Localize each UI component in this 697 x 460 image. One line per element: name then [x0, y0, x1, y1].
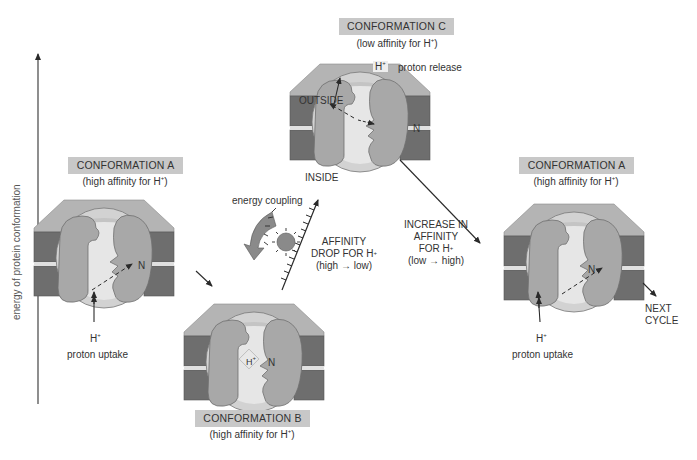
conformation-c-title: CONFORMATION C: [339, 18, 454, 35]
conformation-b-subtitle: (high affinity for H+): [187, 429, 317, 440]
conformation-a-right-subtitle: (high affinity for H+): [511, 176, 641, 187]
next-cycle-label: NEXT CYCLE: [645, 303, 678, 327]
proton-uptake-label-right: proton uptake: [512, 349, 573, 360]
conformation-b-title: CONFORMATION B: [195, 410, 310, 427]
transporter-conformation-c: [290, 64, 430, 172]
proton-release-label: proton release: [398, 62, 462, 73]
affinity-drop-label: AFFINITY DROP FOR H+ (high → low): [304, 236, 384, 272]
site-label-n: N: [588, 264, 595, 275]
transporter-conformation-a-right: [504, 204, 644, 312]
site-label-n: N: [413, 123, 420, 134]
conformation-a-right-title: CONFORMATION A: [519, 157, 634, 174]
conformation-a-left-title: CONFORMATION A: [68, 157, 183, 174]
site-label-n: N: [138, 260, 145, 271]
conformation-a-left-subtitle: (high affinity for H+): [60, 176, 190, 187]
energy-axis-label: energy of protein conformation: [11, 184, 22, 320]
released-proton-label: H+: [373, 61, 388, 72]
bound-proton-label: H+: [246, 356, 256, 367]
site-label-n: N: [268, 357, 275, 368]
conformation-c-subtitle: (low affinity for H+): [332, 38, 462, 49]
transporter-conformation-a-left: [34, 200, 174, 308]
proton-uptake-label-left: proton uptake: [67, 349, 128, 360]
outside-label: OUTSIDE: [299, 95, 343, 106]
energy-coupling-label: energy coupling: [232, 195, 303, 206]
inside-label: INSIDE: [305, 172, 338, 183]
proton-ion-label: H+: [536, 333, 547, 344]
diagram-canvas: [0, 0, 697, 460]
affinity-increase-label: INCREASE IN AFFINITY FOR H+ (low → high): [396, 219, 476, 267]
proton-ion-label: H+: [90, 333, 101, 344]
